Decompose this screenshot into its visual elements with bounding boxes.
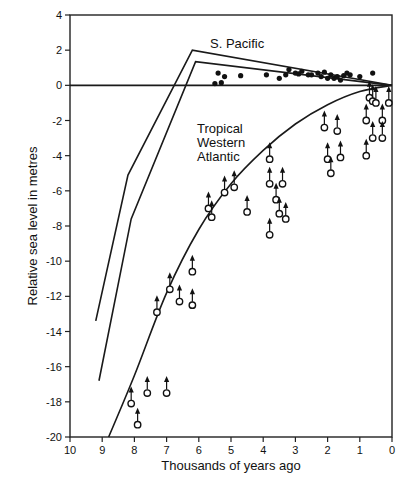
y-tick-label: -8 [52, 220, 62, 232]
arrow-up-icon [370, 121, 375, 127]
x-tick-label: 0 [389, 444, 395, 456]
label-s-pacific: S. Pacific [210, 36, 265, 51]
x-tick-label: 3 [292, 444, 298, 456]
data-point-filled [222, 74, 227, 79]
arrow-up-icon [206, 191, 211, 197]
data-point-open [321, 124, 327, 130]
x-tick-label: 1 [357, 444, 363, 456]
y-tick-label: -20 [46, 431, 62, 443]
arrow-up-icon [222, 176, 227, 182]
data-point-filled [299, 69, 304, 74]
data-point-arrow-marker [334, 114, 340, 134]
data-point-filled [264, 72, 269, 77]
data-point-filled [309, 72, 314, 77]
y-tick-label: -12 [46, 290, 62, 302]
data-point-open [369, 135, 375, 141]
arrow-up-icon [135, 408, 140, 414]
data-point-arrow-marker [189, 255, 195, 275]
data-point-arrow-marker [283, 202, 289, 222]
arrow-up-icon [267, 218, 272, 224]
data-point-arrow-marker [279, 167, 285, 187]
data-point-arrow-marker [321, 111, 327, 131]
arrow-up-icon [190, 288, 195, 294]
data-point-filled [357, 74, 362, 79]
data-point-filled [286, 67, 291, 72]
data-point-open [373, 100, 379, 106]
data-point-arrow-marker [363, 139, 369, 159]
data-point-arrow-marker [134, 408, 140, 428]
data-point-open [244, 209, 250, 215]
data-point-open [176, 298, 182, 304]
label-twa-line3: Atlantic [197, 149, 240, 164]
arrow-up-icon [145, 376, 150, 382]
data-point-open [128, 400, 134, 406]
line-tropical-western-atlantic-curve [109, 85, 392, 437]
data-point-arrow-marker [379, 121, 385, 141]
data-point-arrow-marker [266, 167, 272, 187]
data-point-open [221, 189, 227, 195]
data-point-open [276, 210, 282, 216]
y-tick-label: 0 [56, 79, 62, 91]
x-tick-label: 9 [99, 444, 105, 456]
arrow-up-icon [335, 114, 340, 120]
arrow-up-icon [164, 376, 169, 382]
y-tick-label: -16 [46, 361, 62, 373]
arrow-up-icon [364, 104, 369, 110]
arrow-up-icon [245, 195, 250, 201]
y-tick-label: 2 [56, 44, 62, 56]
data-point-arrow-marker [176, 285, 182, 305]
data-point-filled [219, 80, 224, 85]
line-s-pacific-envelope-upper [96, 50, 392, 321]
arrow-up-icon [177, 285, 182, 291]
y-tick-label: -4 [52, 150, 62, 162]
data-point-open [266, 181, 272, 187]
data-point-open [363, 117, 369, 123]
arrow-up-icon [283, 202, 288, 208]
data-point-arrow-marker [244, 195, 250, 215]
arrow-up-icon [273, 183, 278, 189]
data-point-open [231, 184, 237, 190]
series-lines [70, 50, 392, 437]
arrow-up-icon [232, 170, 237, 176]
arrow-up-icon [364, 139, 369, 145]
data-point-open [363, 152, 369, 158]
data-point-arrow-marker [144, 376, 150, 396]
arrow-up-icon [325, 142, 330, 148]
data-point-filled [277, 76, 282, 81]
x-tick-label: 5 [228, 444, 234, 456]
data-point-arrow-marker [221, 176, 227, 196]
data-point-filled [348, 72, 353, 77]
data-point-open [208, 214, 214, 220]
data-point-filled [238, 73, 243, 78]
x-axis-title: Thousands of years ago [161, 458, 300, 473]
data-point-open [386, 100, 392, 106]
line-s-pacific-envelope-lower [99, 62, 392, 381]
sea-level-chart: 109876543210420-2-4-6-8-10-12-14-16-18-2… [0, 0, 416, 499]
arrow-up-icon [338, 140, 343, 146]
data-point-arrow-marker [363, 104, 369, 124]
data-point-open [134, 421, 140, 427]
data-point-open [167, 286, 173, 292]
arrow-up-icon [190, 255, 195, 261]
y-tick-label: -18 [46, 396, 62, 408]
data-point-open [334, 128, 340, 134]
data-point-open [189, 269, 195, 275]
data-point-filled [322, 70, 327, 75]
data-point-open [163, 390, 169, 396]
data-point-arrow-marker [163, 376, 169, 396]
x-tick-label: 4 [260, 444, 266, 456]
x-tick-label: 8 [131, 444, 137, 456]
data-point-open [283, 216, 289, 222]
y-tick-label: -6 [52, 185, 62, 197]
y-tick-label: -14 [46, 326, 62, 338]
data-point-arrow-marker [154, 295, 160, 315]
series-points [128, 67, 392, 428]
y-axis-title: Relative sea level in metres [25, 146, 40, 305]
x-tick-label: 7 [164, 444, 170, 456]
x-tick-label: 2 [325, 444, 331, 456]
data-point-arrow-marker [231, 170, 237, 190]
x-tick-label: 10 [64, 444, 76, 456]
data-point-filled [319, 74, 324, 79]
data-point-arrow-marker [205, 191, 211, 211]
data-point-filled [370, 70, 375, 75]
